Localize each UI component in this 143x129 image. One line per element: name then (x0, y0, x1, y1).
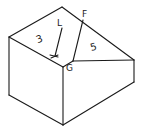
isometric-block-drawing: 3 L F 5 K G (0, 0, 143, 129)
top-left-edge (9, 7, 62, 37)
label-face-5: 5 (89, 41, 98, 53)
line-l-to-k (55, 28, 62, 56)
ridge-to-right-edge (73, 60, 134, 61)
diagram-canvas: 3 L F 5 K G (0, 0, 143, 129)
label-point-f: F (82, 9, 87, 19)
label-point-l: L (57, 18, 62, 28)
top-right-edge (62, 7, 134, 60)
bottom-right-edge (63, 82, 134, 125)
label-face-3: 3 (35, 32, 45, 45)
label-point-g: G (66, 63, 73, 73)
bottom-left-edge (9, 95, 63, 125)
line-f-to-g (73, 20, 83, 61)
